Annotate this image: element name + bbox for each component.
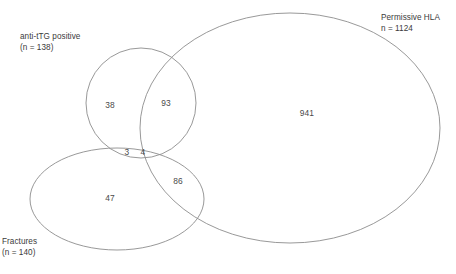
region-count-ttg-hla: 93	[161, 98, 171, 108]
set-ellipse-permissive-hla	[140, 13, 440, 243]
region-count-hla-only: 941	[300, 108, 314, 118]
set-label-fractures: Fractures (n = 140)	[2, 236, 37, 258]
region-count-ttg-fractures: 3	[125, 147, 130, 157]
set-ellipse-fractures	[30, 148, 204, 250]
region-count-all-three: 4	[141, 147, 146, 157]
set-label-anti-ttg: anti-tTG positive (n = 138)	[20, 31, 80, 53]
region-count-ttg-only: 38	[105, 100, 115, 110]
set-label-permissive-hla: Permissive HLA n = 1124	[381, 12, 440, 34]
region-count-fractures-hla: 86	[173, 176, 183, 186]
region-count-fractures-only: 47	[105, 193, 115, 203]
venn-diagram-figure: anti-tTG positive (n = 138) Permissive H…	[0, 0, 456, 274]
